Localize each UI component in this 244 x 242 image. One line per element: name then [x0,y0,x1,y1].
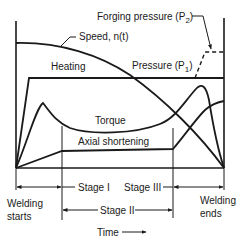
forging-pressure-label: Forging pressure (P2) [97,11,193,25]
axial-shortening-label: Axial shortening [78,136,149,147]
stage-1-label: Stage I [78,182,110,193]
time-label: Time [97,227,119,238]
friction-welding-diagram: Speed, n(t) Forging pressure (P2) Heatin… [0,0,244,242]
welding-ends-label-2: ends [200,208,222,219]
forging-pressure-curve [195,52,224,78]
welding-starts-label-2: starts [7,211,31,222]
pressure-p1-label: Pressure (P1) [132,60,193,74]
stage-3-label: Stage III [124,182,161,193]
torque-label: Torque [95,115,126,126]
heating-label: Heating [51,61,85,72]
welding-starts-label-1: Welding [7,198,43,209]
speed-label: Speed, n(t) [79,31,128,42]
speed-leader [61,37,76,46]
stage-2-label: Stage II [100,205,134,216]
forging-pressure-leader [192,16,211,49]
axial-shortening-curve [16,101,224,168]
welding-ends-label-1: Welding [200,195,236,206]
